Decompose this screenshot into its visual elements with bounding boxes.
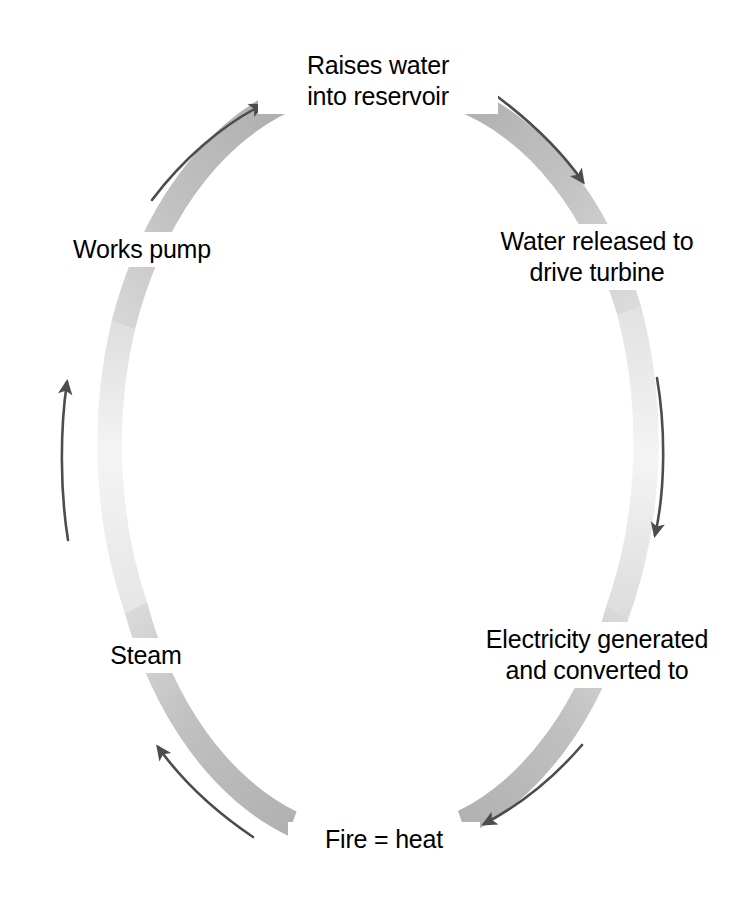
node-label-water-released: Water released to drive turbine	[466, 224, 728, 290]
ring-segment-top-left	[112, 88, 289, 330]
node-label-steam: Steam	[78, 638, 214, 673]
arrow-left	[62, 382, 68, 540]
node-label-electricity: Electricity generated and converted to	[462, 622, 732, 688]
node-label-works-pump: Works pump	[46, 232, 238, 267]
cycle-ring-graphic	[0, 0, 756, 909]
cycle-diagram: Raises water into reservoir Water releas…	[0, 0, 756, 909]
node-label-fire-heat: Fire = heat	[288, 822, 480, 857]
ring-segment-right	[606, 307, 658, 617]
ring-segment-left	[97, 321, 147, 613]
node-label-raises-water: Raises water into reservoir	[258, 48, 498, 114]
